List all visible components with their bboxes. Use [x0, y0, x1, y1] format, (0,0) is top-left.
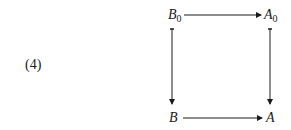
arrow-b0-b — [170, 29, 174, 104]
arrow-a0-a — [268, 29, 272, 104]
diagram-arrows — [0, 0, 291, 130]
